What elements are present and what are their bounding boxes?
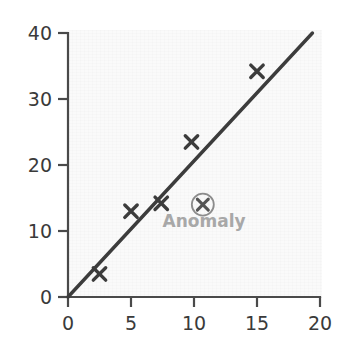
y-tick-label-20: 20: [28, 154, 52, 176]
x-tick-label-0: 0: [62, 312, 74, 334]
y-tick-label-0: 0: [40, 286, 52, 308]
trend-line-path: [68, 33, 312, 297]
trend-line: [68, 33, 312, 297]
x-tick-label-10: 10: [182, 312, 206, 334]
y-axis-ticks: [58, 33, 68, 297]
annotation-anomaly-label: Anomaly: [163, 211, 246, 231]
chart-figure: 010203040 05101520 Anomaly: [0, 0, 344, 350]
x-tick-label-5: 5: [125, 312, 137, 334]
chart-annotations: Anomaly: [163, 211, 246, 231]
y-tick-label-40: 40: [28, 22, 52, 44]
x-tick-label-15: 15: [245, 312, 269, 334]
data-point-markers: [93, 65, 263, 280]
y-tick-label-10: 10: [28, 220, 52, 242]
scatter-chart: 010203040 05101520 Anomaly: [0, 0, 344, 350]
anomaly-point-x: [197, 199, 208, 210]
x-tick-label-20: 20: [308, 312, 332, 334]
y-tick-label-30: 30: [28, 88, 52, 110]
data-point-3: [185, 136, 197, 148]
x-axis-tick-labels: 05101520: [62, 312, 332, 334]
y-axis-tick-labels: 010203040: [28, 22, 52, 308]
data-point-4: [251, 65, 263, 77]
data-point-1: [125, 205, 137, 217]
x-axis-ticks: [68, 297, 320, 307]
data-point-0: [93, 268, 105, 280]
